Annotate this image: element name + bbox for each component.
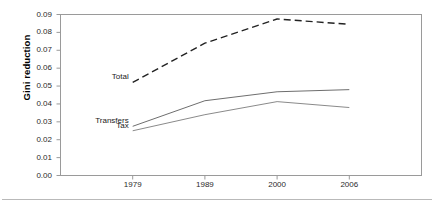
x-axis-ticks — [133, 176, 350, 180]
plot-area — [0, 0, 434, 208]
chart-figure: Gini reduction 0.090.080.070.060.050.040… — [0, 0, 434, 208]
footer-divider — [2, 199, 432, 200]
plot-frame — [61, 15, 422, 176]
series-label-tax: Tax — [69, 121, 129, 130]
series-label-total: Total — [69, 72, 129, 81]
y-axis-ticks — [57, 15, 61, 176]
